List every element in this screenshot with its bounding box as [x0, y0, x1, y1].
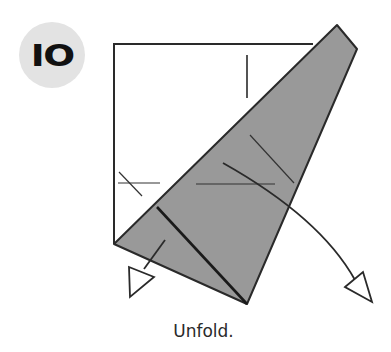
origami-diagram	[0, 0, 391, 352]
unfold-arrow-large-head-icon	[345, 272, 372, 302]
folded-flap	[114, 25, 357, 304]
instruction-caption: Unfold.	[0, 321, 391, 341]
unfold-arrow-small-head-icon	[129, 267, 154, 297]
crease-mark-diagonal-left	[119, 172, 142, 196]
